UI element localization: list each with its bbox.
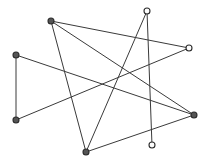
- graph-node[interactable]: [144, 8, 150, 14]
- node-layer: [13, 8, 197, 155]
- graph-canvas: [0, 0, 208, 162]
- graph-edge: [86, 115, 194, 152]
- graph-node[interactable]: [191, 112, 197, 118]
- graph-node[interactable]: [13, 117, 19, 123]
- edge-layer: [16, 11, 194, 152]
- graph-node[interactable]: [13, 52, 19, 58]
- graph-edge: [147, 11, 152, 145]
- graph-node[interactable]: [149, 142, 155, 148]
- graph-edge: [16, 55, 194, 115]
- graph-node[interactable]: [83, 149, 89, 155]
- graph-figure: [0, 0, 208, 162]
- graph-node[interactable]: [186, 45, 192, 51]
- graph-edge: [16, 48, 189, 120]
- graph-node[interactable]: [48, 18, 54, 24]
